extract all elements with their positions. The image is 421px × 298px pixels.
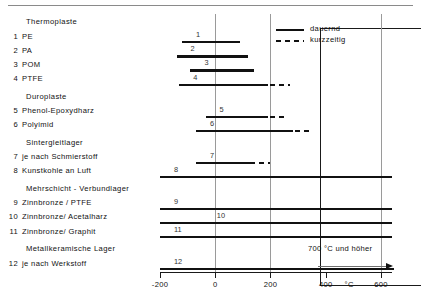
group-separator	[160, 236, 392, 238]
x-tick	[381, 272, 382, 278]
gridline	[215, 14, 216, 272]
bar-index-12: 12	[174, 258, 182, 266]
x-tick	[160, 272, 161, 278]
group-heading: Duroplaste	[0, 91, 155, 103]
material-name: Phenol-Epoxydharz	[22, 105, 94, 117]
material-index: 12	[6, 258, 18, 270]
x-tick-label: 400	[319, 280, 333, 289]
bar-kurzzeitig-4	[270, 84, 289, 86]
bar-index-10: 10	[217, 212, 225, 220]
group-heading-label: Mehrschicht - Verbundlager	[26, 183, 129, 195]
x-tick-label: 600	[374, 280, 388, 289]
bar-index-3: 3	[204, 59, 208, 67]
top-rule	[8, 5, 413, 6]
material-name: je nach Werkstoff	[22, 258, 86, 270]
x-tick-label: -200	[152, 280, 168, 289]
group-separator	[160, 176, 392, 178]
material-row-6: 6Polyimid	[0, 119, 155, 131]
bar-index-8: 8	[174, 166, 178, 174]
material-index: 8	[6, 165, 18, 177]
x-tick	[215, 272, 216, 278]
bar-dauernd-7	[196, 162, 255, 164]
material-index: 10	[6, 211, 18, 223]
bar-index-1: 1	[196, 31, 200, 39]
material-name: je nach Schmierstoff	[22, 151, 98, 163]
material-row-8: 8Kunstkohle an Luft	[0, 165, 155, 177]
bar-dauernd-4	[179, 84, 267, 86]
group-heading: Mehrschicht - Verbundlager	[0, 183, 155, 195]
group-heading: Sintergleitlager	[0, 137, 155, 149]
x-tick-label: 0	[213, 280, 218, 289]
material-row-11: 11Zinnbronze/ Graphit	[0, 226, 155, 238]
material-index: 1	[6, 31, 18, 43]
x-axis-line	[160, 272, 392, 273]
material-index: 4	[6, 73, 18, 85]
material-row-4: 4PTFE	[0, 73, 155, 85]
group-heading-label: Thermoplaste	[26, 16, 77, 28]
bar-kurzzeitig-7	[259, 162, 270, 164]
legend-swatch-dashed-icon	[276, 40, 304, 42]
material-row-12: 12je nach Werkstoff	[0, 258, 155, 270]
material-row-7: 7je nach Schmierstoff	[0, 151, 155, 163]
bar-dauernd-3	[190, 69, 254, 71]
material-name: Polyimid	[22, 119, 54, 131]
gridline	[381, 14, 382, 272]
material-index: 2	[6, 45, 18, 57]
chart-plot-area: 123456789101112	[160, 14, 392, 272]
bar-dauernd-5	[206, 116, 268, 118]
material-row-3: 3POM	[0, 59, 155, 71]
group-separator	[160, 208, 392, 210]
bar-index-6: 6	[210, 120, 214, 128]
x-axis-unit-label: °C	[345, 280, 354, 289]
bar-dauernd-1	[182, 41, 240, 43]
material-name: Kunstkohle an Luft	[22, 165, 91, 177]
bar-index-5: 5	[220, 106, 224, 114]
bar-index-2: 2	[191, 45, 195, 53]
annotation-700c: 700 °C und höher	[308, 244, 372, 253]
bar-index-11: 11	[174, 226, 182, 234]
material-index: 5	[6, 105, 18, 117]
legend-label: kurzzeitig	[310, 35, 346, 44]
material-index: 7	[6, 151, 18, 163]
bar-dauernd-2	[177, 55, 249, 57]
group-separator	[160, 268, 392, 270]
material-name: PA	[22, 45, 32, 57]
material-name: Zinnbronze/ Graphit	[22, 226, 96, 238]
material-row-10: 10Zinnbronze/ Acetalharz	[0, 211, 155, 223]
group-separator	[160, 222, 392, 224]
material-row-2: 2PA	[0, 45, 155, 57]
material-name: POM	[22, 59, 40, 71]
material-label-column: Thermoplaste1PE2PA3POM4PTFEDuroplaste5Ph…	[0, 14, 155, 274]
bar-kurzzeitig-5	[270, 116, 285, 118]
gridline	[270, 14, 271, 272]
material-index: 11	[6, 226, 18, 238]
bar-kurzzeitig-6	[295, 130, 309, 132]
material-name: PE	[22, 31, 33, 43]
material-index: 6	[6, 119, 18, 131]
bar-dauernd-6	[196, 130, 293, 132]
x-tick	[326, 272, 327, 278]
group-heading-label: Metallkeramische Lager	[26, 243, 115, 255]
material-name: Zinnbronze/ Acetalharz	[22, 211, 107, 223]
group-heading: Thermoplaste	[0, 16, 155, 28]
x-tick	[270, 272, 271, 278]
legend-label: dauernd	[310, 24, 340, 33]
annotation-arrowhead-icon	[386, 263, 393, 269]
legend-swatch-solid-icon	[276, 29, 304, 31]
material-index: 9	[6, 197, 18, 209]
bar-index-7: 7	[210, 152, 214, 160]
annotation-arrow-line	[318, 266, 390, 267]
material-row-1: 1PE	[0, 31, 155, 43]
bar-index-9: 9	[174, 198, 178, 206]
material-name: PTFE	[22, 73, 43, 85]
x-tick-label: 200	[264, 280, 278, 289]
material-index: 3	[6, 59, 18, 71]
material-name: Zinnbronze / PTFE	[22, 197, 92, 209]
group-heading-label: Sintergleitlager	[26, 137, 83, 149]
material-row-9: 9Zinnbronze / PTFE	[0, 197, 155, 209]
group-heading: Metallkeramische Lager	[0, 243, 155, 255]
group-heading-label: Duroplaste	[26, 91, 67, 103]
bar-index-4: 4	[193, 74, 197, 82]
material-row-5: 5Phenol-Epoxydharz	[0, 105, 155, 117]
